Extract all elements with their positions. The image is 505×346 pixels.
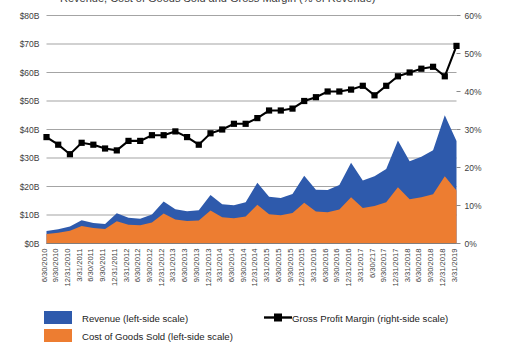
- x-axis-tick-label: 9/30/2010: [51, 249, 60, 283]
- legend-margin-label: Gross Profit Margin (right-side scale): [292, 313, 448, 324]
- margin-marker: [442, 73, 448, 79]
- margin-marker: [67, 151, 73, 157]
- x-axis-tick-label: 6/30/2010: [40, 249, 49, 283]
- legend-margin-marker: [274, 314, 282, 322]
- x-axis-tick-label: 9/30/2013: [192, 249, 201, 283]
- x-axis-tick-label: 9/30/2011: [98, 249, 107, 282]
- y2-axis-tick-label: 40%: [465, 87, 482, 97]
- x-axis-tick-label: 3/31/2018: [403, 249, 412, 283]
- margin-marker: [79, 140, 85, 146]
- x-axis-tick-label: 3/31/2011: [75, 249, 84, 282]
- margin-marker: [219, 126, 225, 132]
- margin-marker: [161, 132, 167, 138]
- margin-marker: [336, 88, 342, 94]
- x-axis-tick-label: 3/31/2012: [122, 249, 131, 283]
- margin-marker: [231, 121, 237, 127]
- margin-marker: [301, 98, 307, 104]
- x-axis-tick-label: 12/31/2010: [63, 249, 72, 287]
- gross-margin-chart: Revenue, Cost of Goods Sold and Gross Ma…: [0, 0, 505, 346]
- y-axis-tick-label: $10B: [20, 210, 40, 220]
- y2-axis-tick-label: 20%: [465, 163, 482, 173]
- legend-cogs-label: Cost of Goods Sold (left-side scale): [82, 331, 233, 342]
- margin-marker: [55, 142, 61, 148]
- y-axis-tick-label: $30B: [20, 153, 40, 163]
- x-axis-tick-label: 12/31/2015: [297, 249, 306, 287]
- legend-cogs: Cost of Goods Sold (left-side scale): [44, 329, 233, 342]
- margin-marker: [418, 66, 424, 72]
- y-axis-tick-label: $60B: [20, 68, 40, 78]
- chart-title: Revenue, Cost of Goods Sold and Gross Ma…: [60, 0, 376, 4]
- x-axis-tick-label: 9/30/2012: [145, 249, 154, 283]
- legend-revenue-swatch: [44, 311, 72, 324]
- x-axis-tick-label: 3/31/2016: [309, 249, 318, 283]
- x-axis-tick-label: 9/30/2015: [286, 249, 295, 283]
- y2-axis-tick-label: 30%: [465, 125, 482, 135]
- x-axis-tick-label: 12/31/2011: [110, 249, 119, 286]
- margin-marker: [407, 69, 413, 75]
- margin-marker: [266, 107, 272, 113]
- x-axis-tick-label: 6/30/2012: [133, 249, 142, 283]
- y-axis-tick-label: $70B: [20, 39, 40, 49]
- margin-marker: [371, 92, 377, 98]
- x-axis-tick-label: 3/31/2015: [262, 249, 271, 283]
- margin-marker: [114, 147, 120, 153]
- x-axis-tick-label: 12/31/2013: [204, 249, 213, 287]
- x-axis-tick-label: 9/30/2014: [239, 249, 248, 283]
- margin-marker: [102, 145, 108, 151]
- margin-marker: [313, 94, 319, 100]
- y-axis-tick-label: $50B: [20, 96, 40, 106]
- margin-marker: [184, 134, 190, 140]
- x-axis-tick-label: 6/30/2013: [180, 249, 189, 283]
- margin-marker: [348, 87, 354, 93]
- legend-revenue: Revenue (left-side scale): [44, 311, 188, 324]
- x-axis-tick-label: 3/31/2014: [215, 249, 224, 283]
- x-axis-tick-label: 3/31/2017: [356, 249, 365, 283]
- x-axis-tick-label: 6/30/2014: [227, 249, 236, 283]
- legend-margin: Gross Profit Margin (right-side scale): [264, 313, 448, 324]
- legend-cogs-swatch: [44, 329, 72, 342]
- x-axis-tick-label: 6/30/2015: [274, 249, 283, 283]
- x-axis-tick-label: 12/31/2012: [157, 249, 166, 287]
- y-axis-tick-label: $80B: [20, 11, 40, 21]
- y2-axis-tick-label: 0%: [465, 239, 478, 249]
- margin-marker: [289, 106, 295, 112]
- margin-marker: [196, 142, 202, 148]
- y2-axis-tick-label: 50%: [465, 49, 482, 59]
- margin-marker: [137, 138, 143, 144]
- x-axis-tick-label: 9/30/2018: [426, 249, 435, 283]
- y2-axis-tick-label: 10%: [465, 201, 482, 211]
- x-axis-tick-label: 12/31/2017: [391, 249, 400, 287]
- margin-marker: [325, 88, 331, 94]
- chart-canvas: $0B$10B$20B$30B$40B$50B$60B$70B$80B0%10%…: [0, 0, 505, 346]
- margin-line: [47, 46, 457, 154]
- margin-marker: [149, 132, 155, 138]
- y2-axis-tick-label: 60%: [465, 11, 482, 21]
- margin-marker: [453, 43, 459, 49]
- margin-marker: [243, 121, 249, 127]
- y-axis-tick-label: $40B: [20, 125, 40, 135]
- margin-marker: [254, 115, 260, 121]
- x-axis-tick-label: 12/31/2018: [438, 249, 447, 287]
- y-axis-tick-label: $20B: [20, 182, 40, 192]
- x-axis-tick-label: 3/31/2019: [450, 249, 459, 283]
- x-axis-tick-label: 6/30/2018: [414, 249, 423, 283]
- x-axis-tick-label: 9/30/2016: [332, 249, 341, 283]
- x-axis-tick-label: 12/31/2016: [344, 249, 353, 287]
- margin-marker: [395, 73, 401, 79]
- margin-marker: [90, 142, 96, 148]
- y-axis-tick-label: $0B: [24, 239, 39, 249]
- legend-revenue-label: Revenue (left-side scale): [82, 313, 188, 324]
- margin-marker: [360, 83, 366, 89]
- x-axis-tick-label: 3/31/2013: [168, 249, 177, 283]
- margin-marker: [430, 64, 436, 70]
- x-axis-tick-label: 9/30/2017: [379, 249, 388, 283]
- x-axis-tick-label: 6/30/2016: [321, 249, 330, 283]
- margin-marker: [172, 128, 178, 134]
- margin-marker: [43, 134, 49, 140]
- chart-title-clipped: Revenue, Cost of Goods Sold and Gross Ma…: [0, 0, 505, 8]
- x-axis-tick-label: 12/31/2014: [250, 249, 259, 287]
- margin-marker: [125, 138, 131, 144]
- x-axis-tick-label: 6/30/2011: [86, 249, 95, 282]
- margin-marker: [278, 107, 284, 113]
- margin-marker: [207, 130, 213, 136]
